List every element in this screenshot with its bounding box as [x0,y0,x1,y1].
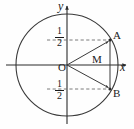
geometry-canvas [0,0,134,129]
segment-OA [67,41,109,65]
tick-label-lower-half: 1 2 [55,79,64,101]
point-label-a: A [113,30,121,41]
fraction-numerator: 1 [55,26,64,37]
point-marker-B [109,88,112,91]
fraction-denominator: 2 [55,91,64,102]
tick-label-upper-half: 1 2 [55,26,64,48]
fraction-denominator: 2 [55,38,64,49]
fraction-numerator: 1 [55,79,64,90]
x-axis-label: x [120,61,125,73]
point-label-m: M [92,54,102,65]
origin-label: O [58,62,66,73]
point-marker-A [109,39,112,42]
geometry-figure: y x O A B M 1 2 1 2 [0,0,134,129]
y-axis-label: y [58,0,63,12]
segment-OB [67,65,109,88]
point-label-b: B [113,88,120,99]
